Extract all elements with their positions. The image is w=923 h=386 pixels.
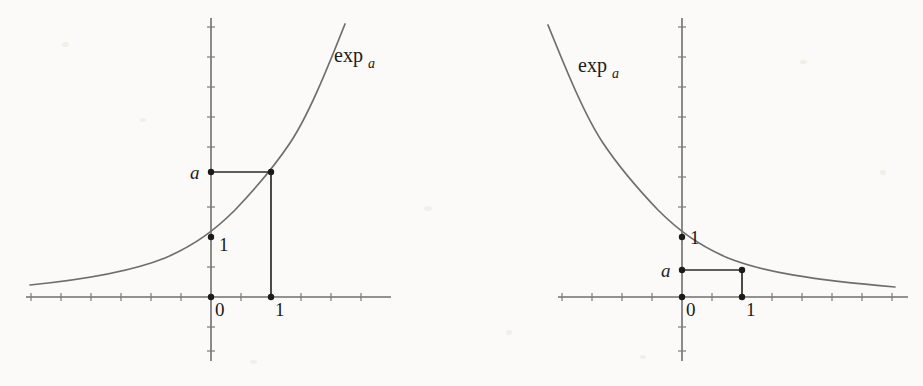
- y-axis-label-one: 1: [219, 234, 229, 255]
- point-y-a: [679, 267, 685, 273]
- exponential-growth-curve: [30, 24, 345, 285]
- function-label-base: exp: [334, 44, 363, 67]
- x-axis-label-one: 1: [746, 299, 756, 320]
- exponential-growth-panel: 0 1 1 a exp a: [0, 0, 461, 386]
- function-label-subscript: a: [368, 56, 375, 71]
- point-curve-at-one: [268, 169, 274, 175]
- point-x-one: [739, 294, 745, 300]
- function-label-exp-a: exp a: [578, 54, 619, 81]
- y-axis-label-a: a: [190, 162, 200, 183]
- function-label-subscript: a: [612, 66, 619, 81]
- point-origin: [679, 294, 685, 300]
- y-axis-label-one: 1: [690, 227, 700, 248]
- function-label-exp-a: exp a: [334, 44, 375, 71]
- point-y-one: [208, 234, 214, 240]
- x-axis-label-zero: 0: [686, 299, 696, 320]
- point-y-a: [208, 169, 214, 175]
- point-origin: [208, 294, 214, 300]
- x-axis-label-zero: 0: [215, 299, 225, 320]
- exponential-decay-panel: 0 1 1 a exp a: [461, 0, 923, 386]
- y-axis-label-a: a: [661, 260, 671, 281]
- point-x-one: [268, 294, 274, 300]
- function-label-base: exp: [578, 54, 607, 77]
- x-axis-label-one: 1: [275, 299, 285, 320]
- exponential-functions-figure: 0 1 1 a exp a: [0, 0, 923, 386]
- point-y-one: [679, 234, 685, 240]
- point-curve-at-one: [739, 267, 745, 273]
